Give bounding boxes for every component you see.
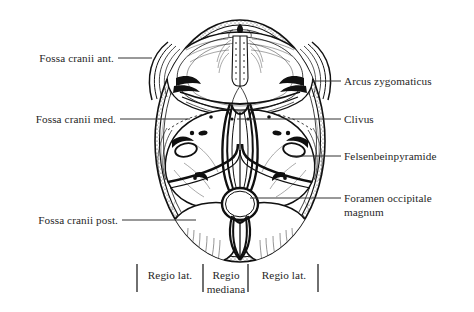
label-regio-mediana: Regio mediana — [205, 269, 247, 296]
regio-lat-right-line1: Regio lat. — [262, 269, 307, 281]
label-regio-lat-right: Regio lat. — [253, 269, 315, 283]
regio-mediana-line2: mediana — [207, 283, 246, 295]
label-fossa-cranii-post: Fossa cranii post. — [0, 214, 118, 228]
label-fossa-cranii-med: Fossa cranii med. — [0, 113, 116, 127]
label-foramen-line1: Foramen occipitale — [344, 192, 432, 204]
cranial-base-interior — [158, 24, 322, 264]
label-foramen-line2: magnum — [344, 206, 384, 218]
foramen-magnum — [222, 188, 258, 220]
regio-lat-left-line1: Regio lat. — [148, 269, 193, 281]
regio-mediana-line1: Regio — [212, 269, 239, 281]
label-arcus-zygomaticus: Arcus zygomaticus — [344, 75, 432, 89]
label-foramen-occipitale-magnum: Foramen occipitale magnum — [344, 192, 432, 219]
label-felsenbeinpyramide: Felsenbeinpyramide — [344, 150, 437, 164]
label-regio-lat-left: Regio lat. — [140, 269, 200, 283]
label-clivus: Clivus — [344, 113, 374, 127]
anterior-cranial-fossa — [167, 24, 313, 116]
label-fossa-cranii-ant: Fossa cranii ant. — [0, 52, 114, 66]
